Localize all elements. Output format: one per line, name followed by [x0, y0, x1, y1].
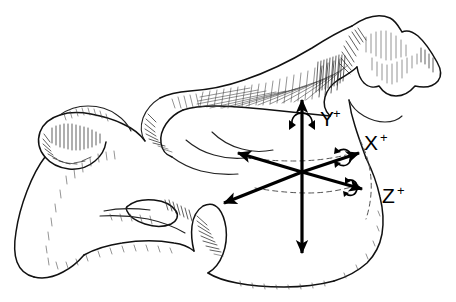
- y-axis-label: Y: [320, 107, 334, 130]
- x-axis-label-superscript: +: [380, 130, 388, 145]
- x-axis-label: X: [364, 131, 378, 154]
- figure-canvas: Y + X + Z +: [0, 0, 456, 302]
- z-axis-label: Z: [382, 184, 395, 207]
- y-axis-label-superscript: +: [333, 106, 341, 121]
- vertebra-coordinate-figure: Y + X + Z +: [0, 0, 456, 302]
- z-axis-label-superscript: +: [397, 183, 405, 198]
- figure-background: [0, 0, 456, 302]
